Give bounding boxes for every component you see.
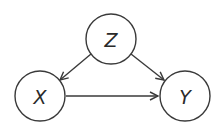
node-z-label: Z <box>103 29 118 51</box>
edge-z-to-y <box>131 54 164 80</box>
node-x: X <box>15 71 65 121</box>
diagram-svg: Z X Y <box>0 0 222 128</box>
node-x-label: X <box>32 86 47 108</box>
node-z: Z <box>86 14 136 64</box>
node-y-label: Y <box>179 86 192 108</box>
edge-z-to-x <box>60 54 91 80</box>
causal-diagram: Z X Y <box>0 0 222 128</box>
node-y: Y <box>160 71 210 121</box>
